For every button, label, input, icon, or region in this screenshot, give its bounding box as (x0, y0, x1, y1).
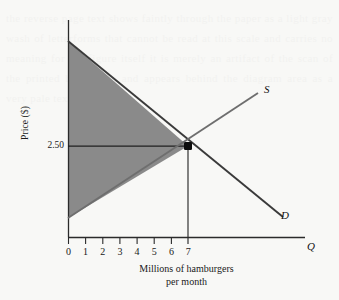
x-tick-label-1: 1 (79, 246, 93, 257)
x-axis-variable-letter: Q (307, 240, 315, 252)
x-tick-label-5: 5 (147, 246, 161, 257)
demand-curve-label: D (281, 209, 289, 221)
shaded-surplus-region (68, 41, 188, 218)
x-tick-label-2: 2 (96, 246, 110, 257)
x-tick-label-6: 6 (164, 246, 178, 257)
figure-root: the reverse page text shows faintly thro… (0, 0, 339, 300)
figure-caption: Millions of hamburgers per month (68, 262, 305, 288)
caption-line-2: per month (68, 275, 305, 288)
y-axis-title: Price ($) (20, 78, 30, 168)
x-tick-label-0: 0 (62, 246, 76, 257)
x-tick-label-4: 4 (130, 246, 144, 257)
y-tick-label-2-50: 2.50 (34, 140, 64, 150)
equilibrium-point-marker (184, 142, 192, 150)
x-axis-ticks (69, 238, 172, 245)
x-tick-label-7: 7 (181, 246, 195, 257)
caption-line-1: Millions of hamburgers (68, 262, 305, 275)
supply-curve-label: S (264, 83, 270, 95)
x-tick-label-3: 3 (113, 246, 127, 257)
